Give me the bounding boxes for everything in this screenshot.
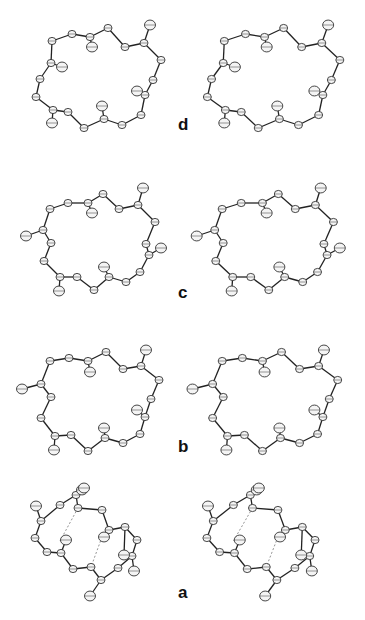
panel-d-left-view bbox=[32, 20, 165, 132]
ring-atom bbox=[137, 111, 145, 118]
ring-atom bbox=[291, 205, 299, 212]
ring-atom bbox=[209, 517, 217, 524]
ring-atom bbox=[219, 393, 227, 400]
ring-atom bbox=[315, 362, 323, 369]
ring-atom bbox=[74, 504, 82, 511]
substituent-atom bbox=[47, 118, 58, 128]
substituent-atom bbox=[31, 501, 42, 511]
ring-atom bbox=[149, 76, 157, 83]
panel-a-left-view bbox=[31, 483, 142, 601]
ring-atom bbox=[276, 434, 284, 441]
substituent-atom bbox=[187, 384, 198, 394]
ring-atom bbox=[220, 37, 228, 44]
substituent-atom bbox=[272, 101, 283, 111]
panel-label-c: c bbox=[178, 284, 187, 301]
substituent-atom bbox=[132, 405, 143, 415]
substituent-atom bbox=[275, 532, 286, 542]
substituent-atom bbox=[259, 367, 270, 377]
ring-atom bbox=[281, 273, 289, 280]
substituent-atom bbox=[99, 532, 110, 542]
substituent-atom bbox=[119, 550, 130, 560]
ring-atom bbox=[64, 199, 72, 206]
substituent-atom bbox=[145, 20, 156, 30]
ring-atom bbox=[122, 278, 130, 285]
ring-atom bbox=[102, 348, 110, 355]
ring-atom bbox=[86, 33, 94, 40]
ring-atom bbox=[247, 273, 255, 280]
panel-d-right-view bbox=[203, 20, 343, 132]
substituent-atom bbox=[85, 367, 96, 377]
ring-atom bbox=[87, 563, 95, 570]
ring-atom bbox=[327, 76, 335, 83]
substituent-atom bbox=[318, 345, 329, 355]
substituent-atom bbox=[296, 550, 307, 560]
ring-atom bbox=[240, 431, 248, 438]
ring-atom bbox=[80, 124, 88, 131]
ring-atom bbox=[40, 257, 48, 264]
ring-atom bbox=[314, 268, 322, 275]
substituent-atom bbox=[97, 101, 108, 111]
substituent-atom bbox=[260, 591, 271, 601]
substituent-atom bbox=[315, 183, 326, 193]
ring-atom bbox=[84, 447, 92, 454]
ring-atom bbox=[141, 413, 149, 420]
ring-atom bbox=[36, 75, 44, 82]
panel-label-a: a bbox=[178, 584, 187, 601]
ring-atom bbox=[258, 447, 266, 454]
ring-atom bbox=[115, 205, 123, 212]
hydrogen-bond bbox=[91, 537, 102, 567]
ring-atom bbox=[212, 257, 220, 264]
panel-c-left-view bbox=[21, 183, 167, 296]
panel-a-right-view bbox=[202, 483, 319, 601]
hydrogen-bond bbox=[266, 537, 278, 567]
substituent-atom bbox=[138, 183, 149, 193]
ring-atom bbox=[325, 395, 333, 402]
ring-atom bbox=[278, 348, 286, 355]
ring-atom bbox=[157, 56, 165, 63]
ring-atom bbox=[203, 534, 211, 541]
ring-atom bbox=[320, 240, 328, 247]
substituent-atom bbox=[17, 384, 28, 394]
ring-atom bbox=[219, 239, 227, 246]
ring-atom bbox=[296, 365, 304, 372]
ring-atom bbox=[298, 523, 306, 530]
ring-atom bbox=[101, 434, 109, 441]
ring-atom bbox=[275, 115, 283, 122]
ring-atom bbox=[137, 362, 145, 369]
ring-atom bbox=[209, 414, 217, 421]
ring-atom bbox=[334, 376, 342, 383]
substituent-atom bbox=[191, 231, 202, 241]
ring-atom bbox=[136, 430, 144, 437]
substituent-atom bbox=[132, 86, 143, 96]
stereo-figure: d c b a bbox=[0, 0, 365, 620]
ring-atom bbox=[43, 548, 51, 555]
substituent-atom bbox=[309, 405, 320, 415]
ring-atom bbox=[248, 504, 256, 511]
substituent-atom bbox=[323, 20, 334, 30]
ring-atom bbox=[294, 121, 302, 128]
substituent-atom bbox=[49, 445, 60, 455]
ring-atom bbox=[37, 517, 45, 524]
ring-atom bbox=[311, 536, 319, 543]
ring-atom bbox=[31, 534, 39, 541]
ring-atom bbox=[134, 201, 142, 208]
ring-atom bbox=[237, 108, 245, 115]
panel-label-b: b bbox=[178, 438, 188, 455]
ring-atom bbox=[68, 30, 76, 37]
ring-atom bbox=[37, 380, 45, 387]
ring-atom bbox=[261, 33, 269, 40]
ring-atom bbox=[229, 273, 237, 280]
substituent-atom bbox=[253, 483, 264, 493]
substituent-atom bbox=[87, 208, 98, 218]
substituent-atom bbox=[129, 566, 140, 576]
substituent-atom bbox=[57, 62, 68, 72]
ring-atom bbox=[98, 506, 106, 513]
ring-atom bbox=[221, 106, 229, 113]
ring-atom bbox=[32, 93, 40, 100]
substituent-atom bbox=[221, 445, 232, 455]
ring-atom bbox=[105, 273, 113, 280]
ring-atom bbox=[262, 563, 270, 570]
ring-atom bbox=[241, 30, 249, 37]
panel-b-left-view bbox=[17, 345, 164, 455]
substituent-atom bbox=[99, 262, 110, 272]
